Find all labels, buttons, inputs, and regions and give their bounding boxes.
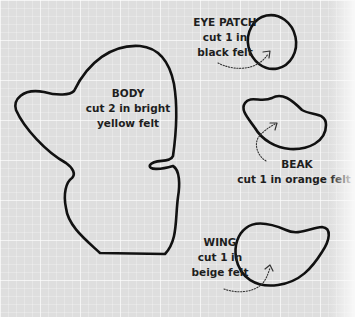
eye-patch-label-line-2: black felt [185, 45, 265, 60]
body-label-title: BODY [68, 86, 188, 101]
wing-label-title: WING [185, 235, 255, 250]
eye-patch-label: EYE PATCH cut 1 in black felt [185, 15, 265, 60]
eye-patch-label-title: EYE PATCH [185, 15, 265, 30]
body-outline [15, 46, 179, 254]
beak-outline [243, 96, 326, 149]
wing-label-line-1: cut 1 in [185, 250, 255, 265]
page-edge-shading [329, 0, 355, 317]
wing-label-line-2: beige felt [185, 265, 255, 280]
body-label-line-1: cut 2 in bright [68, 101, 188, 116]
wing-label: WING cut 1 in beige felt [185, 235, 255, 280]
beak-arrowhead [270, 123, 277, 130]
body-label-line-2: yellow felt [68, 116, 188, 131]
eye-patch-label-line-1: cut 1 in [185, 30, 265, 45]
body-label: BODY cut 2 in bright yellow felt [68, 86, 188, 131]
pattern-sheet: BODY cut 2 in bright yellow felt EYE PAT… [0, 0, 355, 317]
